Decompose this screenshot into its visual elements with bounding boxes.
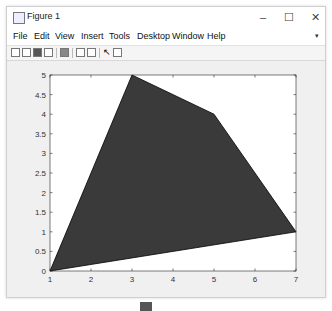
figure-window: Figure 1 – ☐ ✕ File Edit View Insert Too… [6, 6, 326, 298]
x-tick-label: 1 [48, 275, 53, 284]
toolbar-separator [56, 48, 57, 58]
maximize-button[interactable]: ☐ [279, 9, 299, 25]
property-inspector-icon[interactable] [113, 48, 122, 57]
matlab-figure-icon [13, 12, 25, 24]
menu-insert[interactable]: Insert [81, 31, 104, 41]
print-preview-icon[interactable] [60, 48, 69, 57]
y-tick-label: 2 [42, 189, 47, 198]
menu-help[interactable]: Help [207, 31, 226, 41]
menu-window[interactable]: Window [172, 31, 204, 41]
save-icon[interactable] [33, 48, 42, 57]
toolbar: ↖ [7, 46, 325, 61]
y-tick-label: 1 [42, 228, 47, 237]
menu-file[interactable]: File [13, 31, 28, 41]
minimize-button[interactable]: – [253, 9, 273, 25]
close-button[interactable]: ✕ [305, 9, 325, 25]
toolbar-separator [99, 48, 100, 58]
x-tick-label: 7 [294, 275, 299, 284]
link-plot-icon[interactable] [76, 48, 85, 57]
new-figure-icon[interactable] [11, 48, 20, 57]
menu-overflow-icon[interactable]: ▾ [315, 32, 319, 40]
y-tick-label: 3 [42, 149, 47, 158]
y-tick-label: 1.5 [35, 208, 47, 217]
y-tick-label: 5 [42, 71, 47, 80]
window-title: Figure 1 [27, 11, 60, 21]
figure-canvas: 123456700.511.522.533.544.55 [8, 61, 324, 297]
x-tick-label: 4 [171, 275, 176, 284]
y-tick-label: 0 [42, 267, 47, 276]
insert-colorbar-icon[interactable] [87, 48, 96, 57]
print-icon[interactable] [44, 48, 53, 57]
axes[interactable]: 123456700.511.522.533.544.55 [8, 61, 324, 297]
x-tick-label: 3 [130, 275, 135, 284]
y-tick-label: 3.5 [35, 130, 47, 139]
taskbar-fragment [140, 302, 152, 311]
y-tick-label: 0.5 [35, 247, 47, 256]
y-tick-label: 4.5 [35, 91, 47, 100]
open-file-icon[interactable] [22, 48, 31, 57]
toolbar-separator [72, 48, 73, 58]
menu-view[interactable]: View [55, 31, 74, 41]
menu-tools[interactable]: Tools [109, 31, 130, 41]
title-bar[interactable]: Figure 1 – ☐ ✕ [7, 7, 325, 29]
x-tick-label: 2 [89, 275, 94, 284]
pointer-icon[interactable]: ↖ [103, 48, 112, 57]
y-tick-label: 2.5 [35, 169, 47, 178]
menu-edit[interactable]: Edit [34, 31, 50, 41]
menu-bar: File Edit View Insert Tools Desktop Wind… [7, 29, 325, 46]
menu-desktop[interactable]: Desktop [137, 31, 170, 41]
x-tick-label: 6 [253, 275, 258, 284]
y-tick-label: 4 [42, 110, 47, 119]
x-tick-label: 5 [212, 275, 217, 284]
